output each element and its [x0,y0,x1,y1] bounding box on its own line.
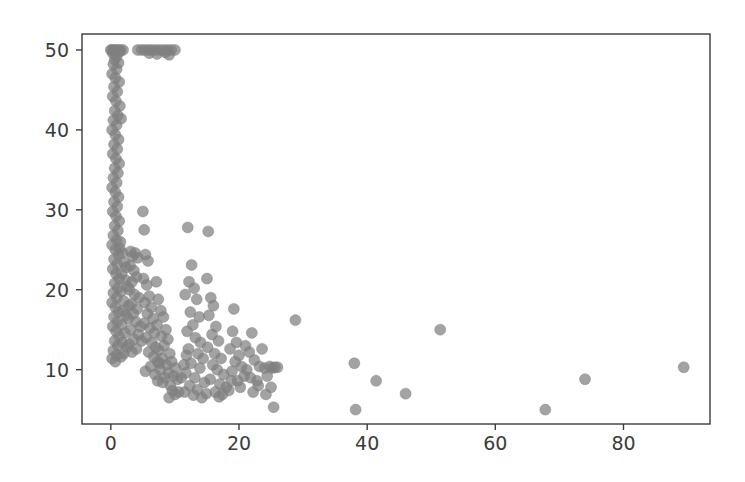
data-point [257,343,268,354]
data-point [290,315,301,326]
x-axis-tick-label: 60 [483,432,507,454]
data-point [203,226,214,237]
data-point [194,363,205,374]
data-point [151,276,162,287]
data-point [183,343,194,354]
data-point [272,362,283,373]
data-point [435,324,446,335]
data-point [152,375,163,386]
data-point [182,222,193,233]
y-axis-tick-label: 50 [45,39,69,61]
data-point [196,392,207,403]
data-point [246,327,257,338]
data-point [201,273,212,284]
data-point [580,374,591,385]
data-point [226,366,237,377]
data-point [213,335,224,346]
data-point [139,224,150,235]
y-axis-tick-label: 20 [45,279,69,301]
y-axis-tick-label: 30 [45,199,69,221]
data-point [179,387,190,398]
data-point [228,303,239,314]
x-axis-tick-label: 40 [355,432,379,454]
x-axis-tick-label: 20 [227,432,251,454]
data-point [350,404,361,415]
x-axis-tick-label: 0 [105,432,117,454]
data-point [371,375,382,386]
data-point [678,362,689,373]
data-point [137,206,148,217]
data-point [116,351,127,362]
data-point [235,382,246,393]
data-point [400,388,411,399]
matplotlib-figure: 0204060801020304050 [0,0,745,482]
data-point [260,389,271,400]
x-axis-tick-label: 80 [611,432,635,454]
scatter-plot: 0204060801020304050 [0,0,745,482]
data-point [253,380,264,391]
data-point [164,392,175,403]
data-point [214,391,225,402]
data-point [164,49,175,60]
data-point [203,310,214,321]
data-point [180,289,191,300]
data-point [223,385,234,396]
data-point [115,236,126,247]
data-point [126,347,137,358]
y-axis-tick-label: 10 [45,359,69,381]
data-point [240,340,251,351]
data-point [540,404,551,415]
data-point [143,255,154,266]
data-point [186,259,197,270]
data-point [268,402,279,413]
data-point [227,326,238,337]
data-point [205,374,216,385]
data-point [153,294,164,305]
data-point [349,358,360,369]
data-point [191,294,202,305]
y-axis-tick-label: 40 [45,119,69,141]
